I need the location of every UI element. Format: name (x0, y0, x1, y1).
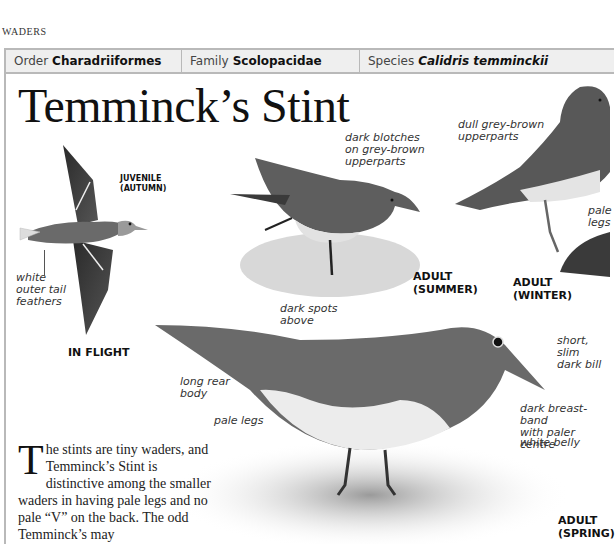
dropcap: T (18, 443, 44, 477)
family-value: Scolopacidae (233, 54, 322, 68)
annotation-white-belly: white belly (520, 437, 580, 449)
annotation-dark-spots: dark spots above (280, 303, 338, 327)
annotation-pale-legs: pale legs (214, 415, 264, 427)
annotation-short-slim-bill: short, slim dark bill (557, 335, 607, 371)
caption-adult-spring: ADULT (SPRING) (558, 514, 615, 540)
intro-text: he stints are tiny waders, and Temminck’… (18, 442, 211, 542)
left-rule (4, 74, 6, 544)
section-label: WADERS (2, 26, 47, 37)
order-value: Charadriiformes (52, 54, 161, 68)
intro-paragraph: The stints are tiny waders, and Temminck… (18, 441, 218, 543)
caption-adult-winter: ADULT (WINTER) (513, 276, 607, 302)
annotation-dull-grey-brown: dull grey-brown upperparts (458, 119, 544, 143)
caption-juvenile: JUVENILE (AUTUMN) (120, 174, 166, 194)
taxonomy-bar: Order Charadriiformes Family Scolopacida… (4, 48, 614, 74)
caption-in-flight: IN FLIGHT (68, 346, 129, 359)
bird-adult-winter-illustration (450, 82, 610, 277)
species-label: Species (368, 54, 414, 68)
annotation-pale-legs-winter: pale legs (588, 205, 612, 229)
annotation-dark-blotches: dark blotches on grey-brown upperparts (345, 132, 425, 168)
taxonomy-order: Order Charadriiformes (6, 50, 182, 72)
taxonomy-species: Species Calidris temminckii (360, 50, 614, 72)
species-value: Calidris temminckii (418, 54, 548, 68)
bird-adult-summer-illustration (220, 150, 430, 300)
leader-line (44, 250, 45, 276)
annotation-long-rear-body: long rear body (180, 376, 230, 400)
family-label: Family (190, 54, 229, 68)
taxonomy-family: Family Scolopacidae (182, 50, 360, 72)
page-title: Temminck’s Stint (18, 82, 349, 130)
annotation-white-outer-tail: white outer tail feathers (16, 272, 66, 308)
order-label: Order (14, 54, 48, 68)
bird-in-flight-illustration (18, 140, 158, 340)
